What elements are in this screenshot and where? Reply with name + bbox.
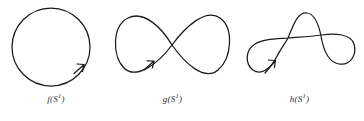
caption-g: g(S1) <box>110 92 235 104</box>
curve-panel-g: g(S1) <box>110 0 235 121</box>
figure-container: f(S1) g(S1) h(S1) <box>0 0 364 121</box>
caption-g-arg-close: ) <box>179 94 182 104</box>
double-loop-curve-svg <box>235 0 364 92</box>
figure-eight-curve-svg <box>110 0 235 92</box>
caption-f-arg-open: (S <box>50 94 58 104</box>
figure-eight-path <box>115 15 229 74</box>
circle-curve-svg <box>0 0 112 92</box>
curve-panel-h: h(S1) <box>235 0 364 121</box>
caption-f: f(S1) <box>0 92 112 104</box>
direction-arrowhead-g <box>144 61 154 70</box>
caption-h-arg-close: ) <box>306 94 309 104</box>
caption-f-arg-close: ) <box>61 94 64 104</box>
curve-panel-f: f(S1) <box>0 0 112 121</box>
direction-arrowhead-f <box>74 64 84 74</box>
direction-arrowhead-h <box>265 60 276 73</box>
double-loop-path <box>247 13 355 72</box>
circle-path <box>12 8 90 86</box>
caption-h: h(S1) <box>235 92 364 104</box>
